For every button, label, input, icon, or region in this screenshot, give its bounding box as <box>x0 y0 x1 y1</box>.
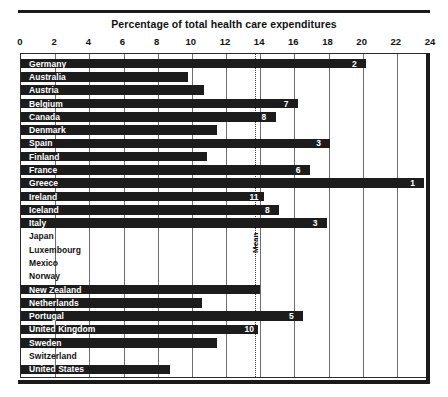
bar-ireland[interactable] <box>21 192 264 202</box>
bar-row[interactable]: Denmark <box>21 125 429 135</box>
bar-row[interactable]: France6 <box>21 165 429 175</box>
bar-row[interactable]: Austria <box>21 85 429 95</box>
country-label-finland: Finland <box>29 152 60 162</box>
country-label-ireland: Ireland <box>29 192 57 202</box>
plot-area: Germany2AustraliaAustriaBelgium7Canada8D… <box>20 53 430 378</box>
bar-row[interactable]: Italy3 <box>21 218 429 228</box>
country-label-sweden: Sweden <box>29 338 61 348</box>
bar-spain[interactable] <box>21 139 330 149</box>
country-label-portugal: Portugal <box>29 311 64 321</box>
plot-right-edge <box>426 53 430 380</box>
country-label-japan: Japan <box>29 231 54 241</box>
country-label-italy: Italy <box>29 218 46 228</box>
country-label-canada: Canada <box>29 112 60 122</box>
country-label-germany: Germany <box>29 59 66 69</box>
country-label-iceland: Iceland <box>29 205 59 215</box>
bar-row[interactable]: Canada8 <box>21 112 429 122</box>
rank-label-italy: 3 <box>313 218 318 228</box>
bar-row[interactable]: Sweden <box>21 338 429 348</box>
x-tick-label-10: 10 <box>186 36 197 47</box>
x-tick-label-2: 2 <box>52 36 57 47</box>
x-axis-tick-labels: 024681012141618202224 <box>0 36 448 54</box>
rank-label-canada: 8 <box>262 112 267 122</box>
x-tick-label-0: 0 <box>17 36 22 47</box>
chart-root: Percentage of total health care expendit… <box>0 0 448 397</box>
rank-label-france: 6 <box>296 165 301 175</box>
country-label-netherlands: Netherlands <box>29 298 79 308</box>
x-tick-label-6: 6 <box>120 36 125 47</box>
bar-row[interactable]: Mexico <box>21 258 429 268</box>
bar-row[interactable]: Spain3 <box>21 139 429 149</box>
country-label-australia: Australia <box>29 72 66 82</box>
bar-germany[interactable] <box>21 59 366 69</box>
bar-row[interactable]: Finland <box>21 152 429 162</box>
rank-label-portugal: 5 <box>289 311 294 321</box>
x-tick-label-14: 14 <box>254 36 265 47</box>
x-tick-label-22: 22 <box>391 36 402 47</box>
x-tick-label-12: 12 <box>220 36 231 47</box>
bar-row[interactable]: Iceland8 <box>21 205 429 215</box>
rank-label-belgium: 7 <box>284 99 289 109</box>
bar-italy[interactable] <box>21 218 327 228</box>
bar-row[interactable]: Belgium7 <box>21 99 429 109</box>
country-label-mexico: Mexico <box>29 258 58 268</box>
country-label-luxembourg: Luxembourg <box>29 245 81 255</box>
bar-row[interactable]: Australia <box>21 72 429 82</box>
x-tick-label-20: 20 <box>356 36 367 47</box>
country-label-france: France <box>29 165 57 175</box>
country-label-united-states: United States <box>29 364 84 374</box>
rank-label-iceland: 8 <box>265 205 270 215</box>
rank-label-united-kingdom: 10 <box>244 324 253 334</box>
bar-france[interactable] <box>21 165 310 175</box>
country-label-greece: Greece <box>29 178 58 188</box>
country-label-united-kingdom: United Kingdom <box>29 324 95 334</box>
mean-line-label: Mean <box>251 233 260 253</box>
x-tick-label-16: 16 <box>288 36 299 47</box>
country-label-belgium: Belgium <box>29 99 63 109</box>
bar-row[interactable]: United States <box>21 365 429 375</box>
country-label-switzerland: Switzerland <box>29 351 77 361</box>
bar-row[interactable]: United Kingdom10 <box>21 325 429 335</box>
rank-label-germany: 2 <box>352 59 357 69</box>
bar-row[interactable]: New Zealand <box>21 285 429 295</box>
x-tick-label-24: 24 <box>425 36 436 47</box>
x-tick-label-18: 18 <box>322 36 333 47</box>
bar-row[interactable]: Greece1 <box>21 178 429 188</box>
country-label-austria: Austria <box>29 85 59 95</box>
country-label-new-zealand: New Zealand <box>29 285 82 295</box>
x-tick-label-8: 8 <box>154 36 159 47</box>
bar-iceland[interactable] <box>21 205 279 215</box>
rank-label-spain: 3 <box>316 138 321 148</box>
bar-row[interactable]: Switzerland <box>21 351 429 361</box>
bar-row[interactable]: Luxembourg <box>21 245 429 255</box>
chart-title: Percentage of total health care expendit… <box>0 18 448 30</box>
bottom-divider-rule <box>18 380 430 384</box>
x-tick-label-4: 4 <box>86 36 91 47</box>
bar-row[interactable]: Germany2 <box>21 59 429 69</box>
top-divider-rule <box>18 10 430 13</box>
bar-row[interactable]: Portugal5 <box>21 311 429 321</box>
country-label-spain: Spain <box>29 138 52 148</box>
country-label-norway: Norway <box>29 271 60 281</box>
rank-label-ireland: 11 <box>250 192 259 202</box>
country-label-denmark: Denmark <box>29 125 66 135</box>
bar-row[interactable]: Ireland11 <box>21 192 429 202</box>
rank-label-greece: 1 <box>410 178 415 188</box>
bar-row[interactable]: Japan <box>21 232 429 242</box>
bar-row[interactable]: Netherlands <box>21 298 429 308</box>
bar-row[interactable]: Norway <box>21 272 429 282</box>
bar-rows: Germany2AustraliaAustriaBelgium7Canada8D… <box>21 54 429 377</box>
bar-greece[interactable] <box>21 178 424 188</box>
